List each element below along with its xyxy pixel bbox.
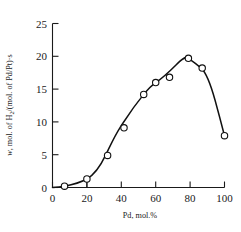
y-tick-labels-group: 0 5 10 15 20 25 (36, 18, 48, 194)
y-ticks-group (53, 24, 59, 188)
x-axis-title: Pd, mol.% (123, 211, 158, 220)
chart-figure: 0 5 10 15 20 25 0 20 40 60 80 100 Pd, mo… (0, 0, 241, 232)
data-point-9 (199, 65, 205, 71)
data-point-7-outlier (166, 74, 172, 80)
data-point-3 (104, 152, 110, 158)
y-axis-title-mid: , mol. of H (5, 114, 14, 150)
axes-group (53, 24, 225, 188)
data-point-4 (121, 125, 127, 131)
x-tick-label-0: 0 (50, 192, 56, 204)
data-point-2 (84, 176, 90, 182)
data-point-10 (221, 133, 227, 139)
x-tick-label-60: 60 (150, 192, 162, 204)
y-axis-title: w, mol. of H2/(mol. of Pd/Pt)·s (5, 54, 15, 155)
x-tick-labels-group: 0 20 40 60 80 100 (50, 192, 234, 204)
data-point-6 (153, 79, 159, 85)
data-point-1 (61, 183, 67, 189)
y-tick-label-25: 25 (36, 18, 48, 30)
y-tick-label-15: 15 (36, 83, 48, 95)
data-markers-group (61, 55, 227, 189)
y-tick-label-5: 5 (42, 149, 48, 161)
x-tick-label-20: 20 (81, 192, 93, 204)
x-tick-label-40: 40 (116, 192, 128, 204)
y-axis-title-tail: /(mol. of Pd/Pt)·s (5, 54, 14, 111)
data-curve (53, 58, 225, 188)
x-tick-label-100: 100 (216, 192, 233, 204)
y-tick-label-20: 20 (36, 50, 48, 62)
data-point-5 (141, 91, 147, 97)
x-tick-label-80: 80 (185, 192, 197, 204)
y-tick-label-0: 0 (42, 182, 48, 194)
data-point-8 (185, 55, 191, 61)
y-tick-label-10: 10 (36, 116, 48, 128)
chart-svg: 0 5 10 15 20 25 0 20 40 60 80 100 Pd, mo… (0, 0, 241, 232)
